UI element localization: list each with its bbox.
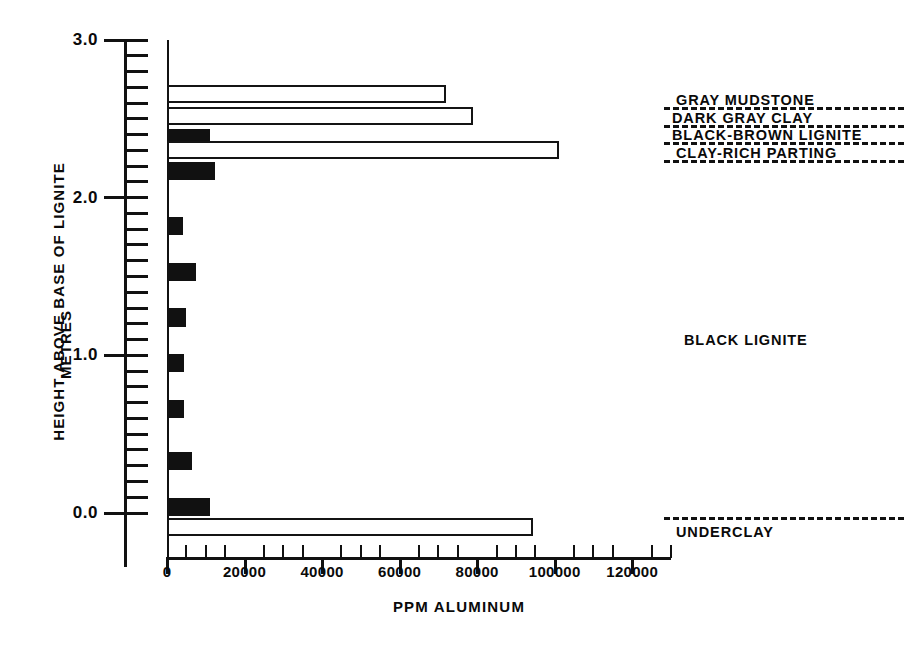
- x-axis-minor-tick: [496, 545, 498, 558]
- y-axis-minor-tick: [126, 165, 148, 168]
- x-axis-title: PPM ALUMINUM: [0, 598, 918, 615]
- x-axis-minor-tick: [612, 545, 614, 558]
- y-axis-minor-tick: [126, 86, 148, 89]
- x-axis-tick-label: 40000: [300, 563, 343, 580]
- x-axis-tick-label: 100000: [529, 563, 581, 580]
- y-axis-major-tick: [104, 39, 148, 42]
- y-axis-minor-tick: [126, 291, 148, 294]
- y-axis-minor-tick: [126, 70, 148, 73]
- y-axis-minor-tick: [126, 338, 148, 341]
- stratigraphic-boundary-rule: [664, 517, 904, 520]
- x-axis-minor-tick: [224, 545, 226, 558]
- x-axis-minor-tick: [340, 545, 342, 558]
- y-axis-minor-tick: [126, 212, 148, 215]
- stratigraphic-boundary-rule: [664, 160, 904, 163]
- x-axis-minor-tick: [302, 545, 304, 558]
- y-axis-minor-tick: [126, 133, 148, 136]
- y-axis-units-label: METRES: [57, 270, 74, 420]
- y-axis-minor-tick: [126, 117, 148, 120]
- y-axis-minor-tick: [126, 448, 148, 451]
- y-axis-minor-tick: [126, 370, 148, 373]
- x-axis-minor-tick: [457, 545, 459, 558]
- y-axis-tick-label: 0.0: [50, 504, 98, 521]
- bar-6: [167, 217, 183, 235]
- y-axis-minor-tick: [126, 102, 148, 105]
- stratigraphic-unit-label: BLACK-BROWN LIGNITE: [672, 127, 862, 143]
- y-axis-minor-tick: [126, 54, 148, 57]
- x-axis-minor-tick: [573, 545, 575, 558]
- bar-7: [167, 263, 196, 281]
- x-axis-minor-tick: [437, 545, 439, 558]
- x-axis-minor-tick: [379, 545, 381, 558]
- stratigraphic-unit-label: CLAY-RICH PARTING: [676, 145, 837, 161]
- x-axis-minor-tick: [418, 545, 420, 558]
- stratigraphic-unit-label: DARK GRAY CLAY: [672, 110, 813, 126]
- x-axis-tick-label: 120000: [606, 563, 658, 580]
- bar-9: [167, 354, 184, 372]
- stratigraphic-unit-label: GRAY MUDSTONE: [676, 92, 815, 108]
- x-axis-minor-tick: [282, 545, 284, 558]
- x-axis-minor-tick: [185, 545, 187, 558]
- x-axis-minor-tick: [360, 545, 362, 558]
- y-axis-minor-tick: [126, 228, 148, 231]
- bar-10: [167, 400, 184, 418]
- x-axis-tick-label: 60000: [378, 563, 421, 580]
- stratigraphic-unit-label: BLACK LIGNITE: [684, 332, 808, 348]
- stratigraphic-unit-label: UNDERCLAY: [676, 524, 774, 540]
- y-axis-minor-tick: [126, 385, 148, 388]
- bar-13: [167, 518, 533, 536]
- x-axis-minor-tick: [263, 545, 265, 558]
- chart-figure: 0.01.02.03.0 HEIGHT ABOVE BASE OF LIGNIT…: [0, 0, 918, 652]
- y-axis-minor-tick: [126, 401, 148, 404]
- y-axis-major-tick: [104, 196, 148, 199]
- y-axis-minor-tick: [126, 322, 148, 325]
- y-axis-minor-tick: [126, 433, 148, 436]
- x-axis-minor-tick: [205, 545, 207, 558]
- y-axis-minor-tick: [126, 180, 148, 183]
- bar-4: [167, 141, 559, 159]
- y-axis-minor-tick: [126, 464, 148, 467]
- y-axis-minor-tick: [126, 480, 148, 483]
- y-axis-major-tick: [104, 354, 148, 357]
- y-axis-minor-tick: [126, 149, 148, 152]
- bar-5: [167, 162, 215, 180]
- y-axis-minor-tick: [126, 307, 148, 310]
- y-axis-minor-tick: [126, 275, 148, 278]
- y-axis-minor-tick: [126, 417, 148, 420]
- x-axis-minor-tick: [651, 545, 653, 558]
- x-axis-minor-tick: [534, 545, 536, 558]
- y-axis-minor-tick: [126, 243, 148, 246]
- y-axis-minor-tick: [126, 259, 148, 262]
- bar-11: [167, 452, 192, 470]
- bar-1: [167, 85, 446, 103]
- x-axis-tick-label: 20000: [223, 563, 266, 580]
- x-axis-minor-tick: [670, 545, 672, 558]
- y-axis-tick-label: 3.0: [50, 31, 98, 48]
- x-axis-minor-tick: [515, 545, 517, 558]
- bar-2: [167, 107, 473, 125]
- x-axis-tick-label: 0: [163, 563, 172, 580]
- bar-12: [167, 498, 210, 516]
- x-axis-minor-tick: [592, 545, 594, 558]
- bar-8: [167, 308, 186, 326]
- y-axis-minor-tick: [126, 496, 148, 499]
- x-axis-tick-label: 80000: [456, 563, 499, 580]
- y-axis-major-tick: [104, 512, 148, 515]
